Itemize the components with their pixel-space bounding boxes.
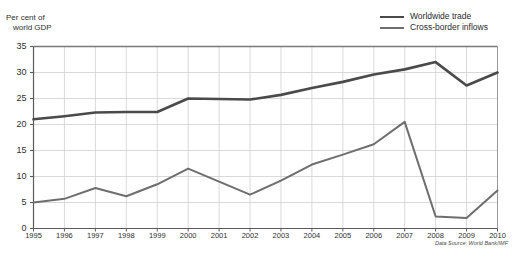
legend-item-cross-border-inflows: Cross-border inflows [380,22,488,33]
y-tick-label: 25 [3,93,27,103]
x-tick-label: 2009 [450,231,484,240]
x-tick-label: 2007 [388,231,422,240]
series-line-cross-border-inflows [34,122,498,218]
figure-title-faint [150,0,390,7]
y-tick-label: 15 [3,145,27,155]
y-axis-title-line1: Per cent of [6,13,45,22]
chart-figure: Per cent of world GDP Worldwide trade Cr… [0,0,517,257]
x-tick-label: 1999 [140,231,174,240]
x-tick-label: 2008 [419,231,453,240]
y-tick-label: 30 [3,67,27,77]
y-tick-label: 5 [3,197,27,207]
series-line-worldwide-trade [34,62,498,119]
x-tick-label: 2000 [171,231,205,240]
x-tick-label: 2005 [326,231,360,240]
plot-area [0,0,517,257]
y-tick-label: 35 [3,41,27,51]
chart-legend: Worldwide trade Cross-border inflows [380,11,488,33]
x-tick-label: 2004 [295,231,329,240]
x-tick-label: 2006 [357,231,391,240]
y-axis-title-line2: world GDP [6,23,76,33]
source-note: Data Source: World Bank/IMF [435,240,508,246]
legend-label-cross-border-inflows: Cross-border inflows [410,22,488,33]
y-tick-label: 10 [3,171,27,181]
legend-line-icon-worldwide-trade [380,16,404,18]
x-tick-label: 2002 [233,231,267,240]
x-tick-label: 1997 [78,231,112,240]
y-axis-title: Per cent of world GDP [6,13,76,33]
x-tick-label: 1995 [17,231,51,240]
x-tick-label: 2001 [202,231,236,240]
legend-item-worldwide-trade: Worldwide trade [380,11,488,22]
x-tick-label: 1998 [109,231,143,240]
x-tick-label: 2003 [264,231,298,240]
y-tick-label: 20 [3,119,27,129]
legend-label-worldwide-trade: Worldwide trade [410,11,471,22]
x-tick-label: 2010 [481,231,515,240]
x-tick-label: 1996 [47,231,81,240]
legend-line-icon-cross-border-inflows [380,27,404,29]
